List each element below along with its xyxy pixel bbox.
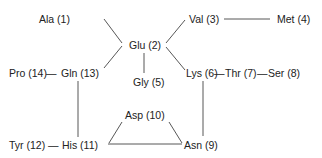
connector-tyr-his: —: [48, 139, 59, 151]
connector-thr-ser: —: [257, 67, 268, 79]
edge-ala-glu: [104, 19, 122, 43]
connector-pro-gln: —: [46, 67, 57, 79]
node-ala: Ala (1): [39, 13, 70, 25]
node-glu: Glu (2): [129, 39, 161, 51]
node-val: Val (3): [189, 13, 219, 25]
edge-asp-asn: [169, 122, 182, 143]
node-met: Met (4): [277, 13, 310, 25]
node-gln: Gln (13): [61, 67, 99, 79]
node-asn: Asn (9): [184, 139, 218, 151]
amino-acid-network-diagram: Ala (1) Glu (2) Val (3) Met (4) Gly (5) …: [0, 0, 322, 158]
node-ser: Ser (8): [268, 67, 300, 79]
node-tyr: Tyr (12): [9, 139, 45, 151]
node-asp: Asp (10): [125, 109, 165, 121]
edge-his-asp: [109, 122, 122, 143]
node-thr: Thr (7): [225, 67, 257, 79]
node-lys: Lys (6): [186, 67, 218, 79]
edge-glu-val: [166, 20, 185, 43]
node-pro: Pro (14): [9, 67, 47, 79]
connector-lys-thr: —: [214, 67, 225, 79]
edge-gln-glu: [104, 46, 122, 68]
edge-glu-lys: [166, 47, 185, 70]
node-his: His (11): [62, 139, 98, 151]
node-gly: Gly (5): [133, 76, 165, 88]
